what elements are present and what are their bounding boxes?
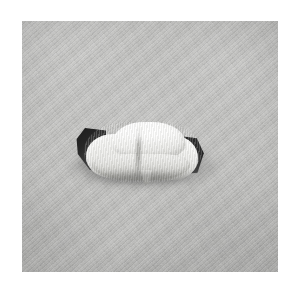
top-highlight [116, 126, 180, 142]
page-canvas [0, 0, 300, 292]
photograph-plate [22, 21, 278, 272]
rolled-white-fabric-bundle [76, 120, 206, 182]
contact-shadow [90, 172, 194, 184]
